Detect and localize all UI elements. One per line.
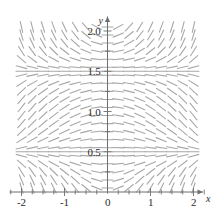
slope-segment — [81, 98, 92, 101]
slope-segment — [145, 57, 155, 61]
slope-segment — [135, 105, 145, 110]
slope-segment — [157, 168, 165, 176]
slope-segment — [81, 90, 92, 93]
slope-segment — [48, 74, 59, 76]
slope-segment — [49, 120, 58, 126]
slope-segment — [124, 155, 135, 156]
y-tick-label-2-0: 2.0 — [88, 25, 101, 37]
slope-segment — [70, 67, 81, 68]
x-tick-label-2: 2 — [191, 196, 196, 208]
slope-segment — [62, 22, 67, 32]
slope-segment — [16, 154, 27, 157]
slope-segment — [81, 58, 92, 60]
slope-segment — [18, 95, 25, 103]
slope-segment — [168, 104, 176, 112]
slope-segment — [39, 96, 47, 103]
slope-segment — [159, 22, 163, 32]
slope-segment — [157, 120, 166, 126]
slope-segment — [71, 39, 79, 46]
slope-segment — [38, 74, 49, 76]
slope-segment — [146, 97, 156, 102]
slope-segment — [70, 57, 80, 60]
slope-segment — [157, 47, 165, 55]
slope-segment — [81, 49, 91, 53]
slope-segment — [124, 67, 135, 68]
slope-segment — [113, 163, 124, 164]
slope-segment — [113, 178, 124, 181]
slope-segment — [134, 82, 145, 85]
slope-segment — [157, 129, 166, 135]
slope-segment — [190, 103, 197, 112]
slope-segment — [49, 104, 58, 111]
slope-segment — [146, 121, 156, 126]
slope-segment — [70, 75, 81, 76]
slope-segment — [113, 107, 124, 109]
slope-segment — [49, 112, 58, 119]
slope-segment — [124, 40, 133, 46]
slope-segment — [113, 186, 123, 190]
slope-segment — [167, 147, 178, 149]
slope-segment — [178, 137, 188, 142]
slope-segment — [18, 111, 25, 120]
y-tick-label-1-5: 1.5 — [88, 65, 101, 77]
slope-segment — [91, 163, 102, 164]
slope-segment — [17, 56, 25, 63]
slope-segment — [71, 169, 80, 175]
slope-segment — [81, 82, 92, 84]
slope-segment — [49, 89, 58, 95]
slope-segment — [72, 31, 79, 40]
slope-segment — [38, 56, 47, 62]
slope-segment — [28, 88, 36, 95]
slope-segment — [124, 139, 135, 141]
slope-segment — [135, 97, 145, 101]
slope-segment — [81, 177, 90, 183]
slope-segment — [168, 112, 176, 120]
slope-segment — [146, 105, 155, 111]
slope-segment — [28, 128, 36, 135]
slope-segment — [188, 66, 199, 69]
slope-segment — [27, 66, 38, 68]
y-axis-arrowhead — [105, 17, 110, 23]
slope-segment — [29, 103, 36, 111]
slope-segment — [27, 81, 37, 86]
slope-segment — [146, 89, 156, 94]
slope-segment — [91, 99, 102, 101]
slope-segment — [145, 75, 156, 76]
slope-segment — [59, 162, 69, 166]
slope-segment — [38, 137, 48, 142]
slope-segment — [49, 81, 59, 85]
slope-segment — [178, 56, 187, 63]
slope-segment — [60, 48, 69, 55]
slope-segment — [60, 129, 70, 134]
slope-segment — [16, 66, 27, 69]
slope-segment — [156, 155, 167, 157]
slope-segment — [135, 113, 145, 118]
slope-segment — [38, 155, 49, 157]
slope-segment — [59, 75, 70, 76]
slope-segment — [135, 130, 145, 134]
slope-segment — [52, 22, 56, 32]
slope-segment — [135, 169, 144, 175]
slope-segment — [190, 119, 197, 127]
slope-segment — [135, 57, 145, 60]
slope-segment — [16, 74, 27, 77]
slope-segment — [145, 67, 156, 68]
slope-segment — [146, 168, 155, 175]
slope-segment — [91, 83, 102, 84]
slope-segment — [136, 176, 144, 183]
slope-segment — [17, 80, 26, 86]
slope-segment — [124, 106, 135, 109]
slope-segment — [124, 163, 135, 165]
slope-segment — [28, 56, 37, 63]
slope-segment — [113, 171, 124, 173]
slope-segment — [157, 104, 166, 111]
slope-segment — [91, 123, 102, 125]
slope-segment — [17, 137, 26, 143]
slope-segment — [28, 96, 36, 104]
slope-segment — [113, 123, 124, 125]
slope-segment — [135, 162, 145, 165]
slope-segment — [156, 57, 166, 62]
slope-segment — [135, 121, 145, 125]
slope-segment — [60, 168, 69, 175]
slope-segment — [91, 50, 102, 52]
